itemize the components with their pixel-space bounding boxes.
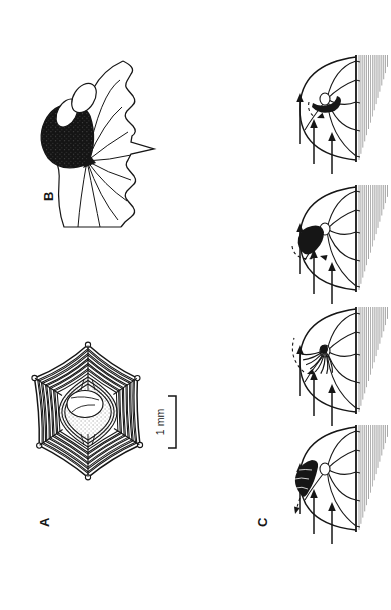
- tent-scalloped-hem: [121, 61, 154, 227]
- substrate-hatching: [359, 55, 388, 160]
- dome-rib: [327, 469, 356, 474]
- flow-step-3: [292, 185, 388, 304]
- panel-a-label: A: [37, 517, 52, 527]
- dome-rib: [327, 313, 356, 351]
- arrowhead: [328, 132, 336, 141]
- web-tip-knob: [32, 375, 37, 380]
- flow-step-1: [294, 425, 388, 544]
- dome-rib: [327, 450, 356, 469]
- scale-bar-bracket: [168, 396, 176, 448]
- panel-c-label: C: [255, 517, 270, 527]
- substrate-hatching: [359, 307, 388, 412]
- larva-fanning: [320, 345, 328, 353]
- panel-b-dome-web-side-view: [41, 61, 154, 227]
- tent-fold-rib: [87, 161, 127, 201]
- tent-fold-rib: [78, 161, 87, 227]
- scale-bar: 1 mm: [154, 396, 176, 448]
- panel-a-dome-web-top-view: [32, 342, 143, 480]
- apex-opening: [320, 463, 330, 475]
- dome-rib: [327, 351, 356, 356]
- dome-rib: [327, 431, 356, 469]
- scanned-figure-page: A B C 1 mm: [0, 0, 391, 610]
- figure-svg: A B C 1 mm: [0, 0, 391, 610]
- figure-rotated-group: A B C 1 mm: [32, 55, 388, 544]
- dome-rib: [327, 210, 356, 229]
- arrowhead: [320, 255, 328, 261]
- arrowhead: [328, 502, 336, 511]
- scale-bar-label: 1 mm: [154, 409, 166, 436]
- web-tip-knob: [137, 442, 142, 447]
- arrowhead: [328, 262, 336, 271]
- arrowhead: [296, 345, 304, 354]
- dome-rib: [327, 61, 356, 99]
- dome-rib: [327, 80, 356, 99]
- arrowhead: [296, 93, 304, 102]
- dome-rib: [327, 191, 356, 229]
- substrate-hatching: [359, 425, 388, 530]
- flow-step-2: [292, 307, 387, 426]
- substrate-hatching: [359, 185, 388, 290]
- dome-rib: [327, 99, 356, 104]
- tent-right-outline: [93, 61, 123, 89]
- arrowhead: [328, 384, 336, 393]
- panel-b-label: B: [41, 192, 56, 201]
- tent-fold-rib: [87, 161, 100, 227]
- panel-c-flow-sequence: [292, 55, 388, 544]
- arrowhead: [294, 506, 300, 514]
- arrowhead: [317, 113, 325, 119]
- apex-opening: [320, 93, 330, 105]
- dome-rib: [327, 332, 356, 351]
- larva-in-web: [67, 391, 103, 418]
- dome-rib: [327, 229, 356, 234]
- flow-step-4: [296, 55, 387, 174]
